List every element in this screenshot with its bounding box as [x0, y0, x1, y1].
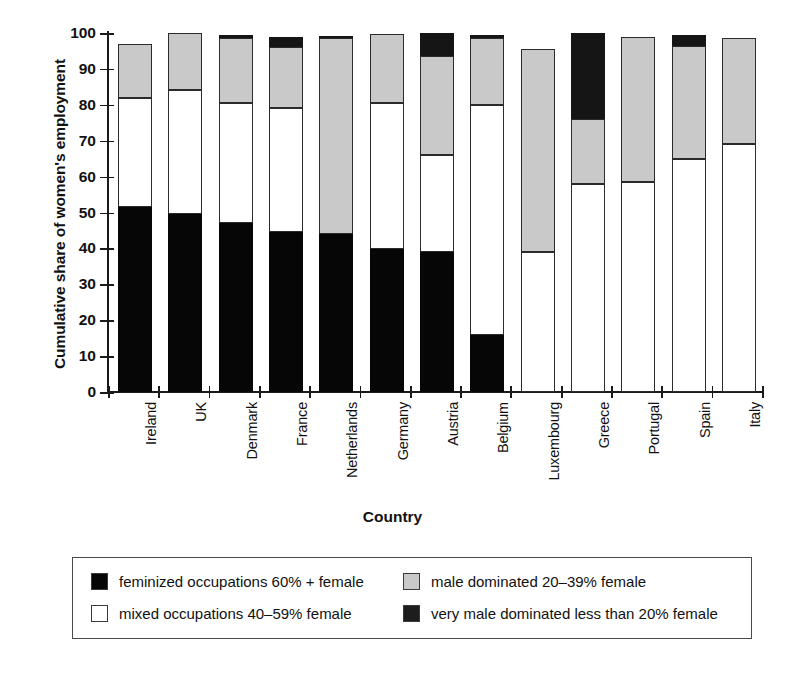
y-axis-tick-label: 40 [50, 240, 96, 256]
bar-segment-feminized [269, 232, 303, 392]
x-axis-label-italy: Italy [746, 402, 762, 428]
bar-segment-very-male-dominated [219, 35, 253, 39]
x-axis-label-text: Greece [596, 402, 612, 448]
legend: feminized occupations 60% + female mixed… [72, 557, 752, 639]
bar-segment-feminized [168, 214, 202, 392]
y-axis-tick-label: 100 [50, 25, 96, 41]
bar-france [269, 33, 303, 392]
white-square-swatch-icon [91, 605, 108, 622]
bar-segment-very-male-dominated [269, 37, 303, 48]
bar-segment-mixed [521, 252, 555, 392]
bar-segment-male-dominated [521, 49, 555, 252]
bar-segment-male-dominated [571, 119, 605, 184]
y-axis-tick-label: 50 [50, 205, 96, 221]
bar-segment-feminized [118, 207, 152, 392]
x-axis-label-text: Spain [697, 402, 713, 438]
bar-belgium [470, 33, 504, 392]
legend-item-feminized: feminized occupations 60% + female [91, 573, 364, 590]
bar-segment-male-dominated [319, 38, 353, 234]
x-axis-label-spain: Spain [696, 402, 712, 438]
x-axis-label-text: France [294, 402, 310, 446]
y-axis-tick-label: 80 [50, 97, 96, 113]
x-axis-title: Country [0, 508, 785, 526]
legend-item-male-dominated: male dominated 20–39% female [403, 573, 646, 590]
y-axis-tick-label: 0 [50, 384, 96, 400]
bar-netherlands [319, 33, 353, 392]
x-axis-label-text: Germany [395, 402, 411, 460]
bar-segment-male-dominated [370, 34, 404, 103]
bar-greece [571, 33, 605, 392]
x-axis-label-germany: Germany [394, 402, 410, 460]
bar-segment-very-male-dominated [571, 33, 605, 119]
bar-segment-male-dominated [269, 47, 303, 108]
y-axis-tick-label: 20 [50, 312, 96, 328]
bar-segment-feminized [420, 252, 454, 392]
bar-luxembourg [521, 33, 555, 392]
bar-segment-mixed [370, 103, 404, 249]
bar-segment-very-male-dominated [470, 35, 504, 39]
bar-segment-male-dominated [168, 33, 202, 90]
bar-segment-mixed [168, 90, 202, 214]
bar-segment-feminized [370, 249, 404, 392]
legend-label-feminized: feminized occupations 60% + female [119, 573, 364, 590]
bar-segment-mixed [269, 108, 303, 232]
x-axis-label-text: Belgium [495, 402, 511, 453]
x-axis-label-text: Ireland [143, 402, 159, 445]
bar-italy [722, 33, 756, 392]
bar-segment-mixed [672, 159, 706, 392]
bar-segment-male-dominated [420, 56, 454, 155]
bar-segment-male-dominated [470, 38, 504, 104]
bar-denmark [219, 33, 253, 392]
x-axis-label-text: Portugal [646, 402, 662, 454]
legend-label-male-dominated: male dominated 20–39% female [431, 573, 646, 590]
bar-segment-very-male-dominated [672, 35, 706, 46]
legend-label-very-male-dominated: very male dominated less than 20% female [431, 605, 718, 622]
bar-segment-male-dominated [118, 44, 152, 98]
x-axis-label-text: Austria [445, 402, 461, 446]
y-axis-tick [100, 392, 114, 394]
bar-segment-male-dominated [219, 38, 253, 103]
x-axis-label-ireland: Ireland [142, 402, 158, 445]
legend-item-very-male-dominated: very male dominated less than 20% female [403, 605, 718, 622]
x-axis-label-portugal: Portugal [645, 402, 661, 454]
bar-segment-male-dominated [722, 38, 756, 144]
x-axis-label-greece: Greece [595, 402, 611, 448]
bar-segment-mixed [420, 155, 454, 252]
bar-segment-feminized [219, 223, 253, 392]
bar-segment-male-dominated [672, 46, 706, 159]
x-axis-label-denmark: Denmark [243, 402, 259, 459]
x-axis-label-netherlands: Netherlands [343, 402, 359, 478]
x-axis-label-uk: UK [192, 402, 208, 422]
chart-container: Cumulative share of women's employment 0… [0, 0, 785, 545]
black-square-swatch-icon [91, 573, 108, 590]
bar-portugal [621, 33, 655, 392]
x-axis-label-belgium: Belgium [494, 402, 510, 453]
bar-germany [370, 33, 404, 392]
grey-square-swatch-icon [403, 573, 420, 590]
x-axis-label-text: Denmark [244, 402, 260, 459]
bar-segment-mixed [470, 105, 504, 335]
x-axis-label-luxembourg: Luxembourg [545, 402, 561, 481]
x-axis-label-text: Luxembourg [546, 402, 562, 481]
bar-spain [672, 33, 706, 392]
bar-segment-mixed [219, 103, 253, 223]
plot-area [108, 33, 762, 392]
bar-segment-very-male-dominated [420, 33, 454, 56]
bar-segment-feminized [470, 335, 504, 392]
bar-austria [420, 33, 454, 392]
x-axis-label-france: France [293, 402, 309, 446]
dark-square-swatch-icon [403, 605, 420, 622]
y-axis-tick-label: 30 [50, 276, 96, 292]
x-axis-label-text: Italy [747, 402, 763, 428]
x-axis-label-text: UK [193, 402, 209, 422]
y-axis-tick-label: 10 [50, 348, 96, 364]
bar-uk [168, 33, 202, 392]
x-axis-label-text: Netherlands [344, 402, 360, 478]
x-axis-label-austria: Austria [444, 402, 460, 446]
bar-segment-very-male-dominated [319, 36, 353, 39]
bar-segment-mixed [722, 144, 756, 392]
y-axis-tick-label: 60 [50, 169, 96, 185]
bar-segment-male-dominated [621, 37, 655, 182]
bar-segment-mixed [621, 182, 655, 392]
bar-ireland [118, 33, 152, 392]
